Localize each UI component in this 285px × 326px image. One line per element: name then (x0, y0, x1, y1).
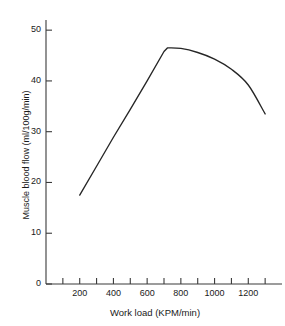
x-axis-ticks (63, 278, 265, 284)
y-axis-ticks (46, 30, 52, 284)
x-tick-label: 400 (96, 289, 130, 298)
chart-container: 01020304050 20040060080010001200 Muscle … (0, 0, 285, 326)
x-tick-label: 1000 (198, 289, 232, 298)
x-tick-label: 800 (164, 289, 198, 298)
x-tick-label: 600 (130, 289, 164, 298)
x-tick-label: 200 (63, 289, 97, 298)
y-axis-title: Muscle blood flow (ml/100g/min) (21, 45, 31, 265)
axis-lines (46, 20, 282, 284)
data-series-line (80, 48, 265, 195)
x-axis-title: Work load (KPM/min) (30, 307, 280, 318)
chart-plot-area (0, 0, 285, 326)
y-tick-label: 50 (19, 25, 41, 34)
x-tick-label: 1200 (231, 289, 265, 298)
y-tick-label: 0 (19, 279, 41, 288)
